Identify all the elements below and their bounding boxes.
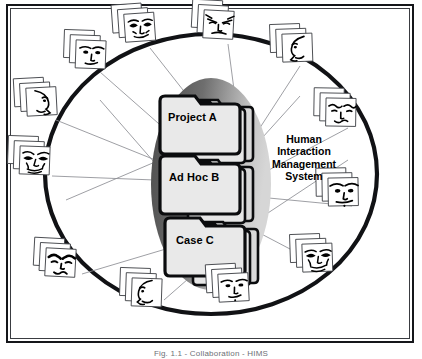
folder-project-a[interactable] (160, 96, 253, 163)
folder-ad-hoc-b[interactable] (160, 156, 253, 223)
participant-card-stack-upper-left[interactable] (63, 29, 106, 68)
participant-card-stack-right-upper[interactable] (314, 88, 357, 127)
figure-caption: Fig. 1.1 - Collaboration - HIMS (0, 349, 422, 359)
participant-card-stack-top-left[interactable] (111, 2, 156, 43)
participant-card-stack-left-lower[interactable] (7, 135, 50, 174)
participant-card-stack-bottom-right[interactable] (290, 233, 333, 272)
folder-label-ad-hoc-b: Ad Hoc B (169, 171, 219, 183)
hims-label-line-1: Human (256, 133, 352, 145)
hims-label-line-4: System (256, 170, 352, 182)
participant-card-stack-bottom-center-l[interactable] (119, 267, 162, 306)
folder-label-case-c: Case C (176, 234, 214, 246)
hims-label: Human Interaction Management System (256, 133, 352, 183)
hims-label-line-3: Management (256, 158, 352, 170)
hims-label-line-2: Interaction (256, 145, 352, 157)
folder-label-project-a: Project A (168, 111, 217, 123)
participant-card-stack-left-upper[interactable] (13, 77, 57, 117)
participant-card-stack-bottom-left[interactable] (33, 237, 77, 277)
participant-card-stack-top-right[interactable] (270, 23, 313, 62)
figure-root: Project A Ad Hoc B Case C Human Interact… (0, 0, 422, 359)
